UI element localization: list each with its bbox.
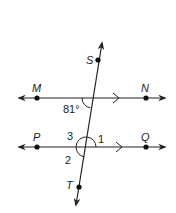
angle-arc-1 — [88, 137, 96, 147]
geometry-diagram: M N P Q S T 81° 1 3 2 — [0, 0, 176, 213]
label-s: S — [86, 54, 94, 66]
point-t — [76, 184, 81, 189]
point-n — [143, 95, 148, 100]
angle-label-1: 1 — [98, 133, 104, 145]
angle-arc-81 — [82, 98, 91, 108]
point-q — [143, 144, 148, 149]
label-m: M — [32, 82, 42, 94]
point-s — [95, 57, 100, 62]
angle-arc-2 — [76, 147, 84, 157]
label-p: P — [33, 131, 41, 143]
point-p — [34, 144, 39, 149]
angle-label-81: 81° — [63, 103, 80, 115]
label-n: N — [141, 82, 149, 94]
transversal-st — [76, 43, 102, 205]
label-q: Q — [141, 131, 150, 143]
angle-label-3: 3 — [67, 130, 73, 142]
point-m — [34, 95, 39, 100]
label-t: T — [66, 179, 74, 191]
angle-label-2: 2 — [65, 154, 71, 166]
